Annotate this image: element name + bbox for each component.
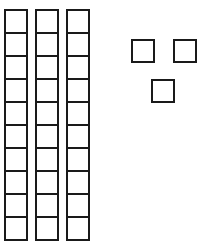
ones-unit	[131, 39, 155, 63]
rod-cell	[6, 172, 26, 195]
rod-cell	[68, 11, 88, 34]
tens-rod	[35, 9, 59, 241]
rod-cell	[68, 126, 88, 149]
rod-cell	[37, 172, 57, 195]
rod-cell	[37, 195, 57, 218]
rod-cell	[6, 11, 26, 34]
rod-cell	[37, 149, 57, 172]
rod-cell	[37, 11, 57, 34]
rod-cell	[68, 57, 88, 80]
rod-cell	[37, 103, 57, 126]
rod-cell	[6, 195, 26, 218]
rod-cell	[37, 126, 57, 149]
rod-cell	[68, 218, 88, 241]
rod-cell	[68, 195, 88, 218]
rod-cell	[68, 149, 88, 172]
rod-cell	[6, 34, 26, 57]
ones-unit	[173, 39, 197, 63]
rod-cell	[37, 57, 57, 80]
rod-cell	[37, 80, 57, 103]
rod-cell	[6, 80, 26, 103]
rod-cell	[68, 34, 88, 57]
rod-cell	[6, 218, 26, 241]
rod-cell	[68, 103, 88, 126]
tens-rod	[66, 9, 90, 241]
rod-cell	[6, 149, 26, 172]
ones-unit	[151, 79, 175, 103]
rod-cell	[6, 103, 26, 126]
rod-cell	[68, 80, 88, 103]
tens-rod	[4, 9, 28, 241]
rod-cell	[6, 126, 26, 149]
rod-cell	[37, 34, 57, 57]
rod-cell	[68, 172, 88, 195]
rod-cell	[37, 218, 57, 241]
rod-cell	[6, 57, 26, 80]
